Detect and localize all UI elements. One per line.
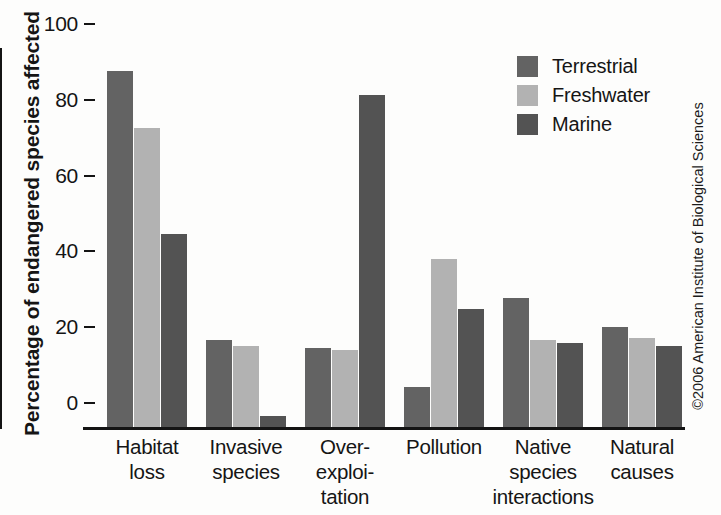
- y-tick-mark: [84, 250, 95, 252]
- y-tick-label: 20: [55, 315, 78, 339]
- bar: [458, 309, 484, 427]
- y-tick-label: 100: [44, 12, 78, 36]
- bar: [656, 346, 682, 427]
- bar-group: [206, 48, 286, 427]
- bar: [431, 259, 457, 427]
- legend-label: Freshwater: [552, 84, 650, 107]
- y-tick-60: 60: [55, 164, 95, 188]
- bar: [260, 416, 286, 427]
- bar: [503, 298, 529, 427]
- legend-item: Freshwater: [517, 81, 650, 110]
- bar: [134, 128, 160, 427]
- bar: [305, 348, 331, 427]
- y-tick-label: 60: [55, 164, 78, 188]
- y-tick-mark: [84, 99, 95, 101]
- y-tick-80: 80: [55, 88, 95, 112]
- legend-item: Marine: [517, 110, 650, 139]
- bar-group: [404, 48, 484, 427]
- copyright-notice: ©2006 American Institute of Biological S…: [690, 91, 706, 421]
- y-tick-0: 0: [67, 391, 95, 415]
- x-category-label-line: exploi-: [283, 459, 407, 484]
- bar-group: [107, 48, 187, 427]
- x-category-label-line: tation: [283, 484, 407, 509]
- y-tick-mark: [84, 175, 95, 177]
- legend-label: Marine: [552, 113, 612, 136]
- y-tick-20: 20: [55, 315, 95, 339]
- chart-legend: TerrestrialFreshwaterMarine: [517, 52, 650, 139]
- bar: [530, 340, 556, 427]
- y-tick-label: 40: [55, 239, 78, 263]
- y-axis-line: [0, 48, 2, 429]
- bar: [557, 343, 583, 427]
- x-category-label: Naturalcauses: [580, 434, 704, 484]
- y-tick-100: 100: [44, 12, 95, 36]
- x-category-label-line: causes: [580, 459, 704, 484]
- y-tick-mark: [84, 326, 95, 328]
- bar: [332, 350, 358, 427]
- y-tick-mark: [84, 23, 95, 25]
- x-axis-line: [83, 427, 685, 430]
- x-category-label-line: Natural: [580, 434, 704, 459]
- y-axis-title: Percentage of endangered species affecte…: [20, 36, 44, 436]
- bar: [206, 340, 232, 427]
- legend-item: Terrestrial: [517, 52, 650, 81]
- legend-swatch: [517, 114, 538, 135]
- y-tick-label: 80: [55, 88, 78, 112]
- y-tick-40: 40: [55, 239, 95, 263]
- y-tick-label: 0: [67, 391, 78, 415]
- bar: [602, 327, 628, 427]
- bar: [233, 346, 259, 427]
- bar: [359, 95, 385, 427]
- bar: [629, 338, 655, 427]
- legend-swatch: [517, 85, 538, 106]
- legend-swatch: [517, 56, 538, 77]
- bar: [161, 234, 187, 427]
- bar: [107, 71, 133, 427]
- bar-chart-figure: Percentage of endangered species affecte…: [0, 0, 721, 515]
- bar-group: [305, 48, 385, 427]
- y-tick-mark: [84, 402, 95, 404]
- legend-label: Terrestrial: [552, 55, 638, 78]
- bar: [404, 387, 430, 427]
- x-category-label-line: interactions: [481, 484, 605, 509]
